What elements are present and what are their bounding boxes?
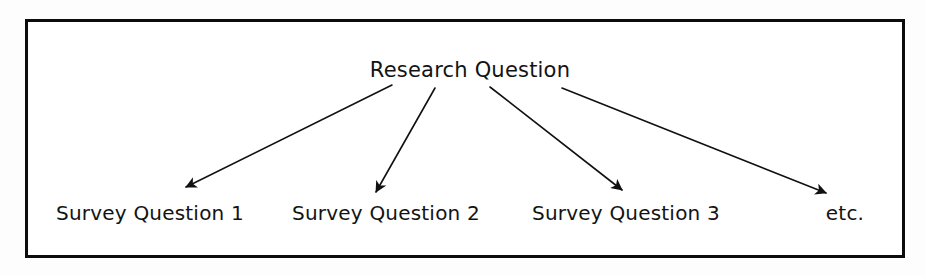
node-etc: etc. bbox=[826, 201, 864, 225]
node-survey-question-3: Survey Question 3 bbox=[532, 201, 720, 225]
node-research-question: Research Question bbox=[370, 58, 570, 82]
node-survey-question-2: Survey Question 2 bbox=[292, 201, 480, 225]
diagram-root: Research Question Survey Question 1 Surv… bbox=[0, 0, 926, 276]
node-survey-question-1: Survey Question 1 bbox=[56, 201, 244, 225]
